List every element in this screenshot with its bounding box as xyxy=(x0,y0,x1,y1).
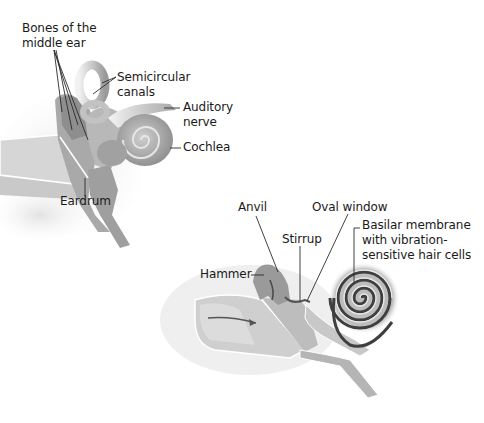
label-auditory-line2: nerve xyxy=(183,115,217,130)
label-auditory-line1: Auditory xyxy=(183,100,233,115)
label-basilar-line3: sensitive hair cells xyxy=(362,248,471,263)
label-anvil: Anvil xyxy=(238,200,267,215)
label-eardrum: Eardrum xyxy=(60,194,111,209)
label-basilar-line1: Basilar membrane xyxy=(362,218,471,233)
label-bones-line2: middle ear xyxy=(22,36,85,51)
label-semicircular-line1: Semicircular xyxy=(117,70,190,85)
label-hammer: Hammer xyxy=(200,267,251,282)
label-cochlea: Cochlea xyxy=(183,140,230,155)
label-semicircular-line2: canals xyxy=(117,85,155,100)
label-basilar-line2: with vibration- xyxy=(362,233,447,248)
label-oval-window: Oval window xyxy=(312,200,387,215)
label-stirrup: Stirrup xyxy=(282,232,322,247)
label-bones-line1: Bones of the xyxy=(22,21,97,36)
detail-panel xyxy=(160,262,400,398)
